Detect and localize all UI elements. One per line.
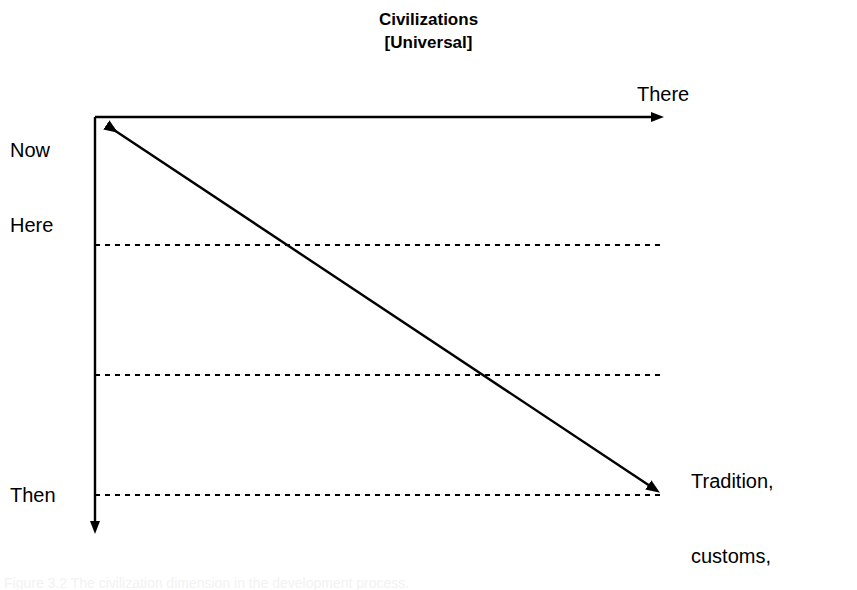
figure-root: Civilizations [Universal]: [0, 0, 857, 590]
figure-caption: Figure 3.2 The civilization dimension in…: [4, 575, 409, 590]
annotation-tradition-block: Tradition, customs, superstition (polygy…: [691, 419, 823, 590]
axis-label-here: Here: [10, 213, 53, 238]
axis-label-then: Then: [10, 483, 56, 508]
trajectory-arrow: [108, 126, 650, 486]
axis-label-there: There: [637, 82, 689, 107]
annotation-line-2: customs,: [691, 544, 823, 569]
axis-label-now-here: Now Here: [10, 88, 53, 288]
annotation-line-1: Tradition,: [691, 469, 823, 494]
axis-label-now: Now: [10, 138, 53, 163]
